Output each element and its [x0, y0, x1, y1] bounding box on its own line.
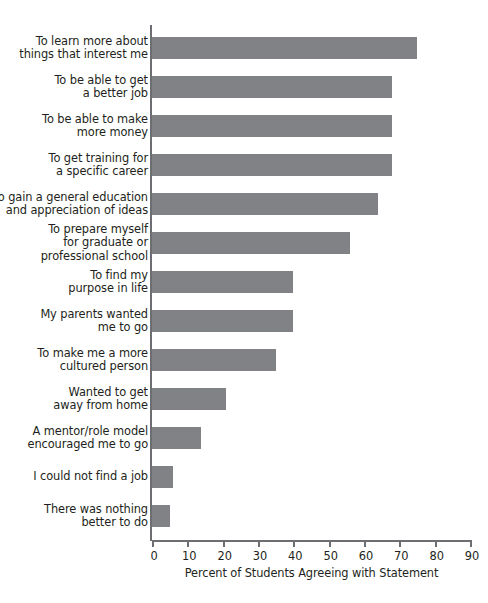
- category-label: To gain a general education and apprecia…: [0, 191, 148, 218]
- category-label: I could not find a job: [0, 470, 148, 483]
- bar-row: A mentor/role model encouraged me to go: [0, 427, 488, 449]
- x-tick: [152, 540, 154, 547]
- category-label: A mentor/role model encouraged me to go: [0, 425, 148, 452]
- category-label: To get training for a specific career: [0, 152, 148, 179]
- bar-row: To gain a general education and apprecia…: [0, 193, 488, 215]
- bar: [152, 76, 392, 98]
- x-tick-label: 80: [417, 549, 457, 563]
- bar-row: To be able to make more money: [0, 115, 488, 137]
- bar-row: To prepare myself for graduate or profes…: [0, 232, 488, 254]
- x-tick: [187, 540, 189, 547]
- x-tick: [470, 540, 472, 547]
- category-label: To make me a more cultured person: [0, 347, 148, 374]
- bar-row: Wanted to get away from home: [0, 388, 488, 410]
- bar: [152, 154, 392, 176]
- bar-row: To learn more about things that interest…: [0, 37, 488, 59]
- x-tick-label: 50: [311, 549, 351, 563]
- bar-row: My parents wanted me to go: [0, 310, 488, 332]
- x-tick-label: 90: [452, 549, 488, 563]
- bar-row: To find my purpose in life: [0, 271, 488, 293]
- category-label: To find my purpose in life: [0, 269, 148, 296]
- x-tick: [364, 540, 366, 547]
- x-tick-label: 40: [275, 549, 315, 563]
- x-tick-label: 0: [134, 549, 174, 563]
- category-label: There was nothing better to do: [0, 503, 148, 530]
- category-label: To learn more about things that interest…: [0, 35, 148, 62]
- bar: [152, 37, 417, 59]
- bar-row: I could not find a job: [0, 466, 488, 488]
- x-tick: [399, 540, 401, 547]
- x-tick: [329, 540, 331, 547]
- x-tick-label: 10: [169, 549, 209, 563]
- bar-row: To get training for a specific career: [0, 154, 488, 176]
- category-label: To prepare myself for graduate or profes…: [0, 223, 148, 263]
- bar-row: To make me a more cultured person: [0, 349, 488, 371]
- category-label: My parents wanted me to go: [0, 308, 148, 335]
- category-label: To be able to get a better job: [0, 74, 148, 101]
- bar: [152, 310, 293, 332]
- bar-chart: To learn more about things that interest…: [0, 0, 488, 603]
- bar: [152, 271, 293, 293]
- category-label: To be able to make more money: [0, 113, 148, 140]
- x-tick: [258, 540, 260, 547]
- x-tick-label: 20: [205, 549, 245, 563]
- x-tick-label: 30: [240, 549, 280, 563]
- x-axis-title: Percent of Students Agreeing with Statem…: [152, 566, 471, 580]
- bar: [152, 466, 173, 488]
- category-label: Wanted to get away from home: [0, 386, 148, 413]
- x-axis-line: [152, 540, 471, 542]
- bar: [152, 505, 170, 527]
- bar: [152, 232, 350, 254]
- bar-row: There was nothing better to do: [0, 505, 488, 527]
- bar: [152, 193, 378, 215]
- x-tick-label: 70: [381, 549, 421, 563]
- bar-row: To be able to get a better job: [0, 76, 488, 98]
- bar: [152, 115, 392, 137]
- x-tick: [293, 540, 295, 547]
- bar: [152, 349, 276, 371]
- bar: [152, 388, 226, 410]
- x-tick-label: 60: [346, 549, 386, 563]
- x-tick: [223, 540, 225, 547]
- bar: [152, 427, 201, 449]
- x-tick: [435, 540, 437, 547]
